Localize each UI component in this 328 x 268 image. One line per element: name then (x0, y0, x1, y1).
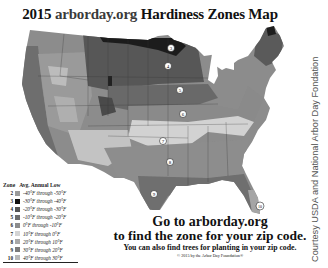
legend-row: 5-10°F through -20°F (3, 213, 66, 221)
zone-label-7: 7 (160, 138, 167, 145)
legend-header-zone: Zone (3, 181, 15, 189)
legend-range: -30°F through -40°F (23, 197, 66, 205)
legend-row: 2-40°F through -50°F (3, 189, 66, 197)
legend-zone: 6 (3, 221, 13, 229)
legend-range: -20°F through -30°F (23, 205, 66, 213)
legend-row: 60°F through -10°F (3, 221, 66, 229)
legend-row: 710°F through 0°F (3, 230, 66, 238)
legend-range: -40°F through -50°F (23, 189, 66, 197)
legend-swatch (15, 247, 20, 252)
zone-label-10: 10 (256, 202, 264, 210)
legend-row: 820°F through 10°F (3, 238, 66, 246)
svg-text:10: 10 (258, 204, 262, 209)
legend-swatch (15, 215, 20, 220)
legend-range: 40°F through 30°F (23, 254, 63, 262)
legend-zone: 3 (3, 197, 13, 205)
zone-label-6: 6 (180, 111, 187, 118)
legend-swatch (15, 223, 20, 228)
title-year: 2015 (22, 6, 51, 22)
legend-zone: 2 (3, 189, 13, 197)
legend-zone: 7 (3, 230, 13, 238)
legend-zone: 5 (3, 213, 13, 221)
zone-label-5: 5 (177, 87, 184, 94)
legend-swatch (15, 231, 20, 236)
zone-label-4: 4 (165, 63, 172, 70)
legend-row: 3-30°F through -40°F (3, 197, 66, 205)
legend-header: Zone Avg. Annual Low (3, 181, 66, 189)
legend-header-range: Avg. Annual Low (19, 181, 60, 189)
title-rest: Hardiness Zones Map (141, 6, 278, 22)
legend-zone: 10 (3, 254, 13, 262)
legend-row: 4-20°F through -30°F (3, 205, 66, 213)
legend-row: 930°F through 20°F (3, 246, 66, 254)
cta-line-2: to find the zone for your zip code. (100, 229, 320, 243)
legend-zone: 8 (3, 238, 13, 246)
cta-line-3: You can also find trees for planting in … (100, 243, 320, 253)
credit-text: Courtesy USDA and National Arbor Day Fon… (310, 57, 320, 262)
cta-line-1: Go to arborday.org (100, 215, 320, 229)
zone-label-8: 8 (167, 159, 174, 166)
legend-swatch (15, 191, 20, 196)
divider (3, 262, 78, 263)
map-title: 2015 arborday.org Hardiness Zones Map (0, 6, 300, 23)
legend-range: -10°F through -20°F (23, 213, 66, 221)
legend-swatch (15, 207, 20, 212)
legend-range: 30°F through 20°F (23, 246, 63, 254)
legend-swatch (15, 199, 20, 204)
title-site: arborday.org (55, 6, 137, 22)
legend-range: 20°F through 10°F (23, 238, 63, 246)
zone-label-3: 3 (168, 45, 175, 52)
call-to-action: Go to arborday.org to find the zone for … (100, 215, 320, 258)
legend-swatch (15, 255, 20, 260)
zone-legend: Zone Avg. Annual Low 2-40°F through -50°… (3, 181, 66, 262)
legend-zone: 4 (3, 205, 13, 213)
legend-zone: 9 (3, 246, 13, 254)
legend-row: 1040°F through 30°F (3, 254, 66, 262)
legend-range: 0°F through -10°F (23, 221, 62, 229)
legend-swatch (15, 239, 20, 244)
zone-label-9: 9 (151, 191, 158, 198)
legend-range: 10°F through 0°F (23, 230, 60, 238)
copyright: © 2015 by the Arbor Day Foundation® (100, 253, 320, 258)
